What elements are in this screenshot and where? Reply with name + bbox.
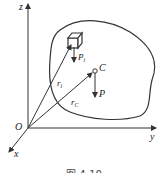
total-weight-label: P: [98, 88, 105, 99]
diagram-canvas: z y x O ri Pi rC C P 图 4-10: [0, 0, 163, 173]
origin-label: O: [15, 121, 22, 132]
diagram-figure: z y x O ri Pi rC C P 图 4-10: [0, 0, 163, 173]
pi-label: Pi: [77, 52, 86, 63]
ri-label: ri: [57, 78, 63, 89]
centroid-point: [93, 69, 97, 73]
position-vector-ri: [28, 45, 71, 128]
z-axis-label: z: [18, 1, 23, 12]
rc-label: rC: [71, 97, 80, 108]
figure-caption: 图 4-10: [66, 169, 102, 173]
centroid-label: C: [99, 62, 106, 73]
x-axis-label: x: [13, 148, 19, 159]
y-axis-label: y: [149, 131, 155, 142]
